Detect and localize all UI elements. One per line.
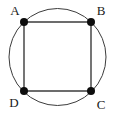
vertex-label-d: D [9,95,18,110]
vertex-dot-d [20,87,28,95]
vertex-dot-a [20,18,28,26]
geometry-figure: A B C D [0,0,115,118]
figure-canvas: A B C D [0,0,115,118]
vertex-dot-c [87,87,95,95]
vertex-label-b: B [97,3,106,18]
vertex-dot-b [87,18,95,26]
vertex-label-c: C [97,97,106,112]
vertex-label-a: A [10,3,20,18]
